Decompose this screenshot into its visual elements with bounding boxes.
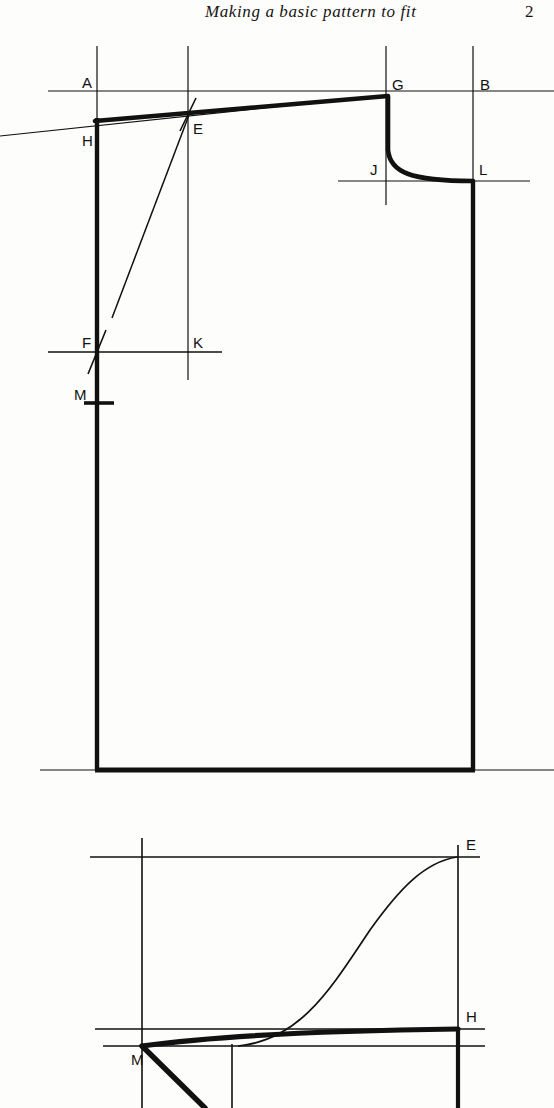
detail-label-h: H [466,1008,477,1025]
pattern-figures: A H E G B J L F K M [0,0,554,1108]
figure-bodice-block: A H E G B J L F K M [0,46,554,770]
construction-line-ef [112,115,189,318]
label-b: B [480,76,490,93]
book-page: Making a basic pattern to fit 2 [0,0,554,1108]
detail-curve-to-e [238,857,457,1046]
figure-shoulder-detail: E H M [90,836,485,1108]
outline-armhole-curve [388,97,473,181]
label-g: G [392,76,404,93]
detail-label-m: M [131,1051,144,1068]
detail-outline-shoulder [142,1029,458,1046]
label-l: L [479,161,487,178]
label-a: A [82,74,92,91]
label-j: J [370,161,378,178]
outline-shoulder [95,96,388,121]
label-k: K [193,334,203,351]
detail-label-e: E [466,836,476,853]
detail-dart-leg [142,1046,205,1108]
label-m: M [74,386,87,403]
label-h: H [82,132,93,149]
label-e: E [193,120,203,137]
label-f: F [82,334,91,351]
